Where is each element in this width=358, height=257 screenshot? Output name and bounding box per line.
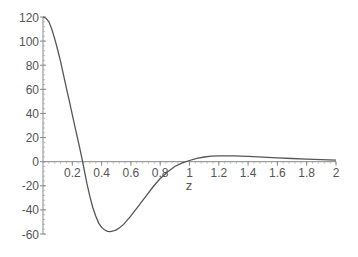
x-tick-label: 0.2 xyxy=(64,166,81,180)
y-tick-label: 120 xyxy=(19,11,39,25)
line-chart: 120100806040200-20-40-60 0.20.40.60.811.… xyxy=(0,0,358,257)
y-axis: 120100806040200-20-40-60 xyxy=(19,11,46,242)
y-tick-label: 80 xyxy=(26,59,40,73)
y-tick-label: 40 xyxy=(26,107,40,121)
x-tick-label: 0.6 xyxy=(123,166,140,180)
x-axis-label: z xyxy=(186,178,193,193)
y-tick-label: -20 xyxy=(22,179,40,193)
y-tick-label: 60 xyxy=(26,83,40,97)
x-tick-label: 1.2 xyxy=(210,166,227,180)
y-tick-label: -60 xyxy=(22,228,40,242)
y-tick-label: 0 xyxy=(32,155,39,169)
x-tick-label: 0.4 xyxy=(93,166,110,180)
x-tick-label: 1.6 xyxy=(269,166,286,180)
y-tick-label: 20 xyxy=(26,131,40,145)
x-tick-label: 2 xyxy=(333,166,340,180)
x-axis: 0.20.40.60.811.21.41.61.82 xyxy=(43,162,340,180)
x-tick-label: 1.4 xyxy=(240,166,257,180)
data-series-line xyxy=(43,17,336,232)
y-tick-label: 100 xyxy=(19,35,39,49)
x-tick-label: 1.8 xyxy=(298,166,315,180)
y-tick-label: -40 xyxy=(22,203,40,217)
